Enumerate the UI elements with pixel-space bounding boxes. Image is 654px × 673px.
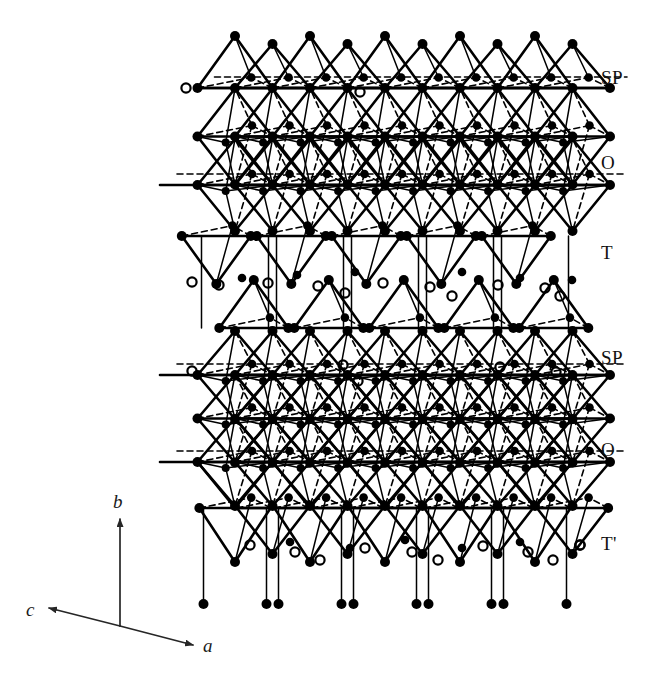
site-open-circle bbox=[407, 547, 416, 556]
site-open-circle bbox=[478, 541, 487, 550]
atom-filled bbox=[530, 83, 540, 93]
atom-filled bbox=[474, 275, 484, 285]
atom-filled bbox=[516, 274, 525, 283]
atom-filled bbox=[528, 221, 537, 230]
site-open-circle bbox=[187, 277, 196, 286]
layer-label-t-prime: T' bbox=[601, 534, 617, 553]
atom-filled bbox=[266, 313, 275, 322]
site-open-circle bbox=[290, 547, 299, 556]
atom-filled bbox=[268, 226, 278, 236]
atom-filled bbox=[566, 313, 575, 322]
atom-filled bbox=[337, 599, 347, 609]
atom-filled bbox=[493, 180, 503, 190]
layer-label-sp-top: SP bbox=[601, 68, 623, 87]
atom-filled bbox=[230, 557, 240, 567]
atom-filled bbox=[559, 187, 567, 195]
atom-filled bbox=[499, 599, 509, 609]
atom-filled bbox=[522, 139, 530, 147]
atom-filled bbox=[530, 31, 540, 41]
atom-filled bbox=[193, 414, 203, 424]
atom-filled bbox=[435, 360, 444, 369]
axis-label-c: c bbox=[26, 600, 34, 619]
atom-filled bbox=[455, 326, 465, 336]
atom-filled bbox=[193, 180, 203, 190]
atom-filled bbox=[324, 275, 334, 285]
atom-filled bbox=[530, 557, 540, 567]
atom-filled bbox=[372, 377, 380, 385]
atom-filled bbox=[380, 414, 390, 424]
atom-filled bbox=[230, 458, 240, 468]
atom-filled bbox=[493, 83, 503, 93]
atom-filled bbox=[585, 121, 594, 130]
atom-filled bbox=[293, 271, 302, 280]
atom-filled bbox=[548, 121, 557, 130]
atom-filled bbox=[194, 503, 204, 513]
site-open-circle bbox=[378, 278, 387, 287]
atom-filled bbox=[230, 132, 240, 142]
atom-filled bbox=[559, 139, 567, 147]
atom-filled bbox=[416, 313, 425, 322]
atom-filled bbox=[559, 464, 567, 472]
atom-filled bbox=[322, 73, 331, 82]
atom-filled bbox=[547, 73, 556, 82]
site-open-circle bbox=[340, 288, 349, 297]
atom-filled bbox=[549, 275, 559, 285]
atom-filled bbox=[522, 464, 530, 472]
atom-filled bbox=[305, 132, 315, 142]
axis-triad bbox=[49, 519, 193, 645]
atom-filled bbox=[455, 180, 465, 190]
atom-filled bbox=[418, 132, 428, 142]
atom-filled bbox=[455, 557, 465, 567]
atom-filled bbox=[364, 323, 374, 333]
atom-filled bbox=[409, 139, 417, 147]
atom-filled bbox=[472, 73, 481, 82]
atom-filled bbox=[409, 187, 417, 195]
atom-filled bbox=[323, 360, 332, 369]
atom-filled bbox=[343, 180, 353, 190]
site-open-circle bbox=[315, 555, 324, 564]
atom-filled bbox=[177, 231, 187, 241]
atom-filled bbox=[359, 493, 368, 502]
atom-filled bbox=[380, 31, 390, 41]
atom-filled bbox=[401, 536, 410, 545]
atom-filled bbox=[297, 421, 305, 429]
atom-filled bbox=[360, 170, 369, 179]
atom-filled bbox=[530, 501, 540, 511]
atom-filled bbox=[222, 377, 230, 385]
atom-filled bbox=[334, 187, 342, 195]
atom-filled bbox=[259, 187, 267, 195]
atom-filled bbox=[455, 370, 465, 380]
atom-filled bbox=[484, 139, 492, 147]
layer-label-o-upper: O bbox=[601, 153, 615, 172]
atom-filled bbox=[547, 493, 556, 502]
atom-filled bbox=[360, 447, 369, 456]
atom-filled bbox=[222, 464, 230, 472]
atom-filled bbox=[259, 464, 267, 472]
atom-filled bbox=[568, 458, 578, 468]
atom-filled bbox=[484, 187, 492, 195]
atom-filled bbox=[259, 139, 267, 147]
atom-filled bbox=[435, 403, 444, 412]
atom-filled bbox=[343, 414, 353, 424]
atom-filled bbox=[522, 187, 530, 195]
atom-filled bbox=[409, 464, 417, 472]
atom-filled bbox=[493, 226, 503, 236]
atom-filled bbox=[398, 403, 407, 412]
atom-filled bbox=[297, 187, 305, 195]
atom-filled bbox=[343, 458, 353, 468]
atom-filled bbox=[297, 464, 305, 472]
atom-filled bbox=[286, 279, 296, 289]
atom-filled bbox=[398, 447, 407, 456]
atom-filled bbox=[327, 231, 337, 241]
atom-filled bbox=[289, 323, 299, 333]
atom-filled bbox=[455, 458, 465, 468]
atom-filled bbox=[546, 231, 556, 241]
atom-filled bbox=[493, 132, 503, 142]
site-open-circle bbox=[360, 543, 369, 552]
atom-filled bbox=[436, 279, 446, 289]
atom-filled bbox=[380, 180, 390, 190]
atom-filled bbox=[530, 180, 540, 190]
atom-filled bbox=[380, 458, 390, 468]
atom-filled bbox=[397, 73, 406, 82]
atom-filled bbox=[380, 83, 390, 93]
